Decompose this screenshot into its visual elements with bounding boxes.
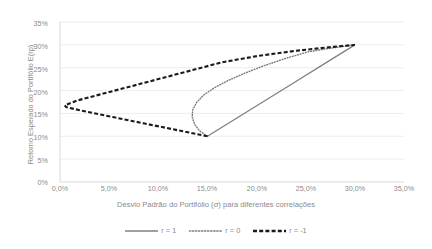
legend-swatch-dashed-icon bbox=[253, 228, 286, 234]
legend-label: r = 0 bbox=[225, 226, 240, 235]
legend-swatch-solid-icon bbox=[125, 228, 158, 234]
chart-legend: r = 1 r = 0 r = -1 bbox=[0, 226, 432, 235]
legend-label: r = -1 bbox=[289, 226, 306, 235]
legend-item-rm1[interactable]: r = -1 bbox=[253, 226, 306, 235]
legend-item-r1[interactable]: r = 1 bbox=[125, 226, 176, 235]
legend-swatch-dotted-icon bbox=[189, 228, 222, 234]
legend-item-r0[interactable]: r = 0 bbox=[189, 226, 240, 235]
legend-label: r = 1 bbox=[161, 226, 176, 235]
portfolio-frontier-chart: Retorno Esperado do Portifólio E(rp) 35%… bbox=[0, 0, 432, 249]
plot-area bbox=[0, 0, 432, 249]
x-axis-title: Desvio Padrão do Portifólio (σ) para dif… bbox=[0, 200, 432, 209]
